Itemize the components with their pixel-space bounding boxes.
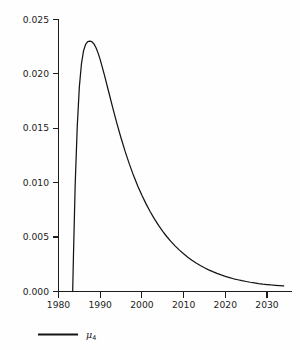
y-tick-label-1: 0.005	[23, 231, 49, 242]
x-tick-label-1: 1990	[89, 299, 113, 310]
x-tick-label-3: 2010	[172, 299, 196, 310]
x-tick-label-5: 2030	[255, 299, 279, 310]
y-tick-label-2: 0.010	[23, 177, 49, 188]
x-tick-label-4: 2020	[214, 299, 238, 310]
chart-legend: μ4	[38, 329, 96, 342]
x-tick-label-2: 2000	[130, 299, 154, 310]
x-axis-tick-labels: 1980 1990 2000 2010 2020 2030	[47, 299, 279, 310]
x-axis-ticks	[59, 292, 268, 298]
y-tick-label-4: 0.020	[23, 68, 49, 79]
legend-label-mu4: μ4	[86, 329, 96, 342]
y-axis-ticks	[53, 19, 59, 291]
y-axis-tick-labels: 0.000 0.005 0.010 0.015 0.020 0.025	[23, 14, 49, 297]
series-line-mu4	[73, 41, 284, 291]
y-tick-label-3: 0.015	[23, 122, 49, 133]
line-chart: 0.000 0.005 0.010 0.015 0.020 0.025 1980…	[0, 0, 300, 350]
y-tick-label-0: 0.000	[23, 286, 49, 297]
x-tick-label-0: 1980	[47, 299, 71, 310]
y-tick-label-5: 0.025	[23, 14, 49, 25]
chart-container: 0.000 0.005 0.010 0.015 0.020 0.025 1980…	[0, 0, 300, 350]
